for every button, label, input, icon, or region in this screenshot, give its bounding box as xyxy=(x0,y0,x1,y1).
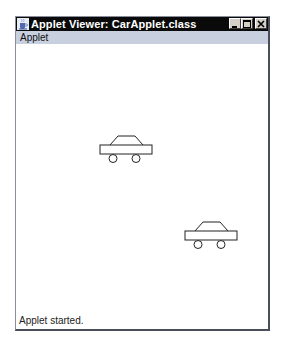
window-controls xyxy=(229,18,267,29)
status-text: Applet started. xyxy=(19,315,83,326)
car-1 xyxy=(100,136,152,163)
applet-content-area: Applet started. xyxy=(16,44,268,329)
maximize-icon xyxy=(243,20,251,28)
minimize-icon xyxy=(231,20,239,28)
title-bar[interactable]: Applet Viewer: CarApplet.class xyxy=(16,17,268,31)
car-2 xyxy=(185,222,237,249)
close-button[interactable] xyxy=(255,18,267,29)
menu-applet[interactable]: Applet xyxy=(16,31,48,44)
minimize-button[interactable] xyxy=(229,18,241,29)
maximize-button[interactable] xyxy=(241,18,253,29)
java-coffee-cup-icon[interactable] xyxy=(17,18,29,30)
applet-canvas xyxy=(16,44,268,304)
menu-bar: Applet xyxy=(16,31,268,44)
close-icon xyxy=(257,20,265,28)
applet-viewer-window: Applet Viewer: CarApplet.class Applet xyxy=(15,16,270,331)
window-title: Applet Viewer: CarApplet.class xyxy=(31,17,196,31)
